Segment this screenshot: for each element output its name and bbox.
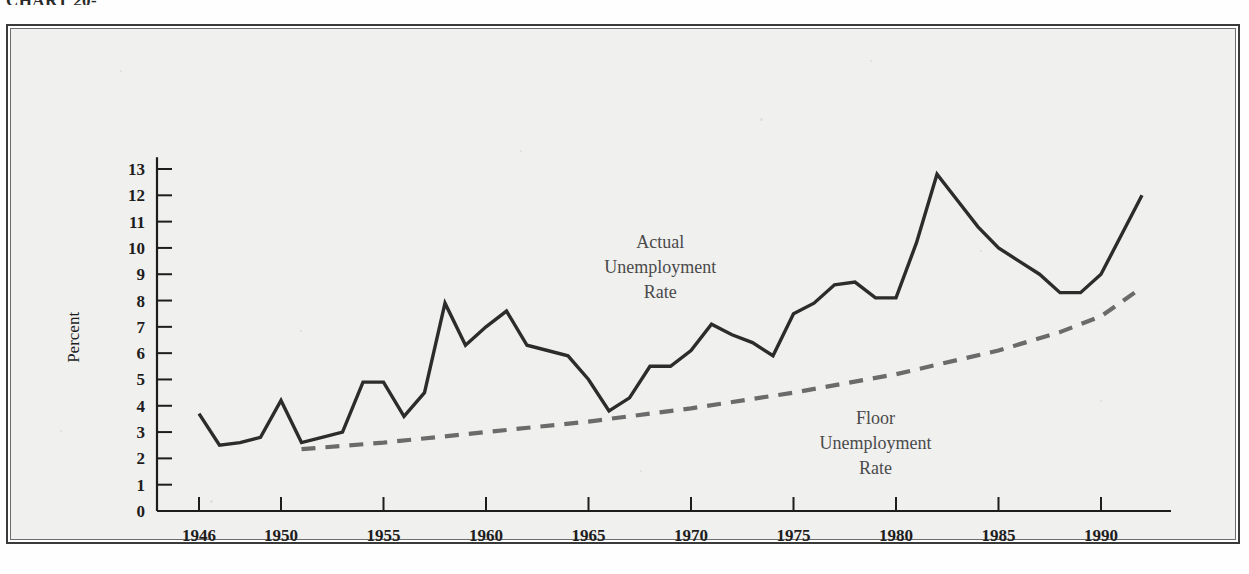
y-tick-label: 4 <box>137 397 146 416</box>
y-tick-label: 7 <box>137 318 146 337</box>
y-axis-label: Percent <box>64 312 83 363</box>
series-annotations: ActualUnemploymentRateFloorUnemploymentR… <box>604 232 931 478</box>
paper-speck <box>60 430 62 432</box>
annotation-line: Rate <box>644 282 677 302</box>
annotation-line: Unemployment <box>820 433 932 453</box>
paper-speck <box>210 500 213 503</box>
paper-speck <box>520 150 522 152</box>
paper-speck <box>760 118 763 121</box>
x-tick-label: 1946 <box>182 526 216 545</box>
line-chart: 012345678910111213 194619501955196019651… <box>39 73 1237 557</box>
y-axis-title: Percent <box>64 312 83 363</box>
floor-label: FloorUnemploymentRate <box>820 408 932 478</box>
chart-caption-top: CHART 20- <box>6 0 97 5</box>
paper-speck <box>640 470 642 472</box>
paper-speck <box>300 330 302 332</box>
y-tick-label: 11 <box>129 213 145 232</box>
plot-area: 012345678910111213 194619501955196019651… <box>39 73 1237 557</box>
x-tick-label: 1965 <box>572 526 606 545</box>
actual-label: ActualUnemploymentRate <box>604 232 716 302</box>
y-tick-label: 8 <box>137 292 146 311</box>
series-line-actual <box>199 174 1142 445</box>
x-tick-label: 1955 <box>367 526 401 545</box>
axes <box>157 157 1171 511</box>
annotation-line: Floor <box>856 408 895 428</box>
annotation-line: Unemployment <box>604 257 716 277</box>
paper-speck <box>1100 400 1102 402</box>
y-axis-ticks: 012345678910111213 <box>128 160 172 521</box>
y-tick-label: 5 <box>137 370 146 389</box>
x-tick-label: 1980 <box>879 526 913 545</box>
y-tick-label: 10 <box>128 239 145 258</box>
y-tick-label: 3 <box>137 423 146 442</box>
y-tick-label: 12 <box>128 186 145 205</box>
series-line-floor <box>302 287 1143 449</box>
data-series <box>199 174 1142 449</box>
x-tick-label: 1970 <box>674 526 708 545</box>
x-tick-label: 1960 <box>469 526 503 545</box>
x-axis-ticks: 1946195019551960196519701975198019851990 <box>182 497 1118 545</box>
y-tick-label: 1 <box>137 476 146 495</box>
inner-frame: 012345678910111213 194619501955196019651… <box>10 28 1236 540</box>
paper-speck <box>980 250 982 252</box>
annotation-line: Actual <box>636 232 684 252</box>
x-tick-label: 1990 <box>1084 526 1118 545</box>
y-tick-label: 13 <box>128 160 145 179</box>
paper-speck <box>120 70 122 72</box>
y-tick-label: 6 <box>137 344 146 363</box>
x-tick-label: 1985 <box>982 526 1016 545</box>
annotation-line: Rate <box>859 458 892 478</box>
x-tick-label: 1950 <box>264 526 298 545</box>
x-tick-label: 1975 <box>777 526 811 545</box>
y-tick-label: 2 <box>137 449 146 468</box>
y-tick-label: 9 <box>137 265 146 284</box>
paper-speck <box>870 60 872 62</box>
y-tick-label: 0 <box>137 502 146 521</box>
chart-page: CHART 20- 012345678910111213 19461950195… <box>0 0 1249 574</box>
